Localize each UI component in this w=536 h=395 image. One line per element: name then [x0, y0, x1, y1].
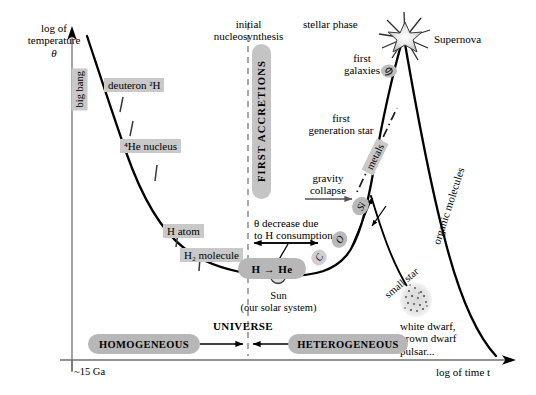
stellar-remnants-caption: white dwarf, brown dwarf pulsar... [400, 320, 457, 357]
pill-heterogeneous: HETEROGENEOUS [288, 334, 408, 354]
pill-first-accretions: FIRST ACCRETIONS [252, 44, 271, 199]
y-axis-label: log of temperature θ [10, 22, 98, 59]
chip-deuteron: deuteron ²H [104, 78, 164, 92]
supernova-label: Supernova [434, 33, 481, 45]
y-axis-label-line1: log of [10, 22, 98, 34]
first-generation-star-label: first generation star [296, 112, 386, 137]
chip-h2-molecule: H₂ molecule [180, 248, 243, 262]
pill-hydrogen-to-helium: H → He [238, 258, 306, 279]
chip-h-atom: H atom [163, 224, 204, 238]
x-axis-label: log of time t [436, 366, 490, 378]
chip-helium-nucleus: ⁴He nucleus [120, 139, 181, 153]
y-axis-label-theta: θ [10, 47, 98, 59]
pill-homogeneous: HOMOGENEOUS [88, 334, 200, 354]
chip-big-bang: big bang [72, 68, 88, 110]
first-galaxies-label: first galaxies [340, 52, 384, 77]
curve-species-ticks [120, 97, 200, 271]
header-initial-nucleosynthesis: initial nucleosynthesis [176, 18, 321, 43]
sun-caption: Sun (our solar system) [226, 290, 331, 314]
theta-decrease-annotation: θ decrease due to H consumption [254, 217, 333, 242]
gravity-collapse-label: gravity collapse [300, 172, 356, 197]
white-dwarf-blob [400, 283, 432, 317]
header-stellar-phase: stellar phase [303, 18, 358, 30]
universe-caption: UNIVERSE [213, 320, 273, 332]
origin-time-note: ~15 Ga [74, 366, 105, 378]
diagram-canvas: log of temperature θ log of time t ~15 G… [0, 0, 536, 395]
y-axis-label-line2: temperature [10, 34, 98, 46]
